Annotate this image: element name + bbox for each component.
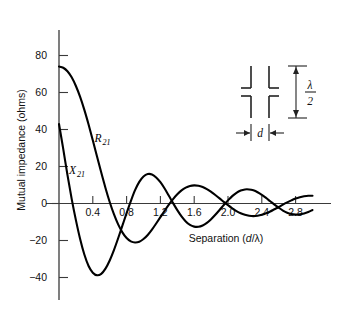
dipole-pair-inset: λ 2 d — [236, 66, 316, 141]
x-tick-label-1p6: 1.6 — [187, 206, 202, 218]
x-axis-title-prefix: Separation ( — [189, 232, 247, 244]
x-tick-label-2p8: 2.8 — [288, 206, 303, 218]
series-label-R21-subscript: 21 — [103, 138, 111, 147]
y-tick-label-60: 60 — [35, 86, 47, 98]
lambda-numerator: λ — [307, 79, 313, 91]
lambda-arrow-down-icon — [293, 110, 299, 117]
series-label-X21-text: X — [68, 164, 77, 176]
figure-container: 80 60 40 20 0 −20 −40 0.4 0.8 1.2 1.6 2.… — [0, 0, 352, 314]
series-label-R21: R 21 — [94, 132, 111, 147]
y-tick-label-20: 20 — [35, 160, 47, 172]
d-separation-label: d — [257, 127, 263, 139]
lambda-arrow-up-icon — [293, 67, 299, 74]
mutual-impedance-chart: 80 60 40 20 0 −20 −40 0.4 0.8 1.2 1.6 2.… — [0, 0, 352, 314]
y-tick-label-0: 0 — [41, 197, 47, 209]
lambda-denominator: 2 — [307, 95, 313, 107]
series-label-X21-subscript: 21 — [77, 170, 85, 179]
y-tick-label-minus20: −20 — [29, 234, 47, 246]
series-label-R21-text: R — [94, 132, 102, 144]
y-tick-label-40: 40 — [35, 123, 47, 135]
y-tick-label-minus40: −40 — [29, 271, 47, 283]
y-axis-title: Mutual impedance (ohms) — [15, 89, 27, 210]
x-tick-label-0p4: 0.4 — [85, 206, 100, 218]
series-label-X21: X 21 — [68, 164, 85, 179]
x-axis-title: Separation (d/λ) — [189, 232, 264, 244]
curve-X21 — [59, 124, 313, 275]
y-tick-label-80: 80 — [35, 49, 47, 61]
d-arrow-left-icon — [270, 130, 276, 136]
d-arrow-right-icon — [244, 130, 250, 136]
